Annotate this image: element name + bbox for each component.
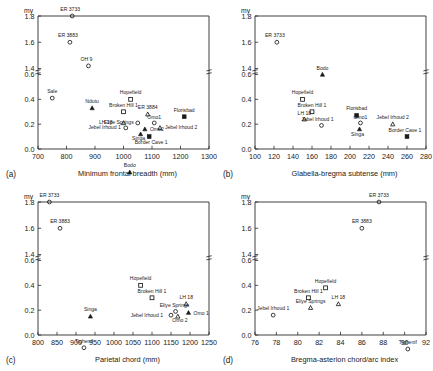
data-point-label: ER 3733 [39,192,59,198]
figure-scatter-panels: 0.00.20.40.61.41.61.87008009001000110012… [0,0,433,371]
data-point-label: Jebel Irhoud 2 [165,124,197,130]
data-point-label: Broken Hill 1 [293,287,322,293]
data-point-label: Singa [350,131,363,137]
data-point-marker [143,127,147,131]
svg-text:1100: 1100 [144,152,159,161]
svg-text:1.4: 1.4 [241,64,251,73]
svg-text:1300: 1300 [201,152,217,161]
data-point-label: Eliye Springs [295,297,325,303]
data-point-marker [300,97,304,101]
svg-text:Minimum frontal breadth (mm): Minimum frontal breadth (mm) [78,169,177,178]
data-point-label: ER 3733 [369,192,389,198]
svg-text:0.2: 0.2 [241,305,251,314]
svg-text:180: 180 [325,152,337,161]
data-point-marker [169,313,173,317]
svg-text:1200: 1200 [182,338,198,347]
data-point-label: ER 3883 [351,218,371,224]
data-point-marker [323,285,327,289]
data-point-marker [122,110,126,114]
data-point-marker [390,122,394,126]
data-point-marker [336,301,340,305]
data-point-label: Jebel Irhoud 2 [376,114,408,120]
data-point-marker [319,124,323,128]
svg-text:900: 900 [89,152,101,161]
data-point-marker [182,115,186,119]
data-point-label: Hopefield [120,89,142,95]
svg-text:1.6: 1.6 [25,38,35,47]
svg-text:140: 140 [287,152,299,161]
data-point-marker [358,121,362,125]
svg-text:(b): (b) [223,170,233,179]
svg-text:100: 100 [249,152,261,161]
data-point-label: Sale [47,88,57,94]
svg-text:1250: 1250 [201,338,217,347]
svg-text:1150: 1150 [163,338,178,347]
svg-text:0.2: 0.2 [25,120,35,129]
data-point-label: Omo1 [147,114,161,120]
data-point-label: Hopefield [291,89,313,95]
svg-text:1100: 1100 [144,338,159,347]
data-point-marker [50,96,54,100]
data-point-label: Broken Hill 1 [297,102,326,108]
svg-text:my: my [24,7,34,15]
svg-text:0.4: 0.4 [25,95,35,104]
data-point-marker [174,309,178,313]
svg-text:240: 240 [382,152,394,161]
data-point-marker [274,40,278,44]
svg-text:1.6: 1.6 [241,38,251,47]
data-point-label: Singa [84,306,97,312]
data-point-label: Omo1 [353,114,367,120]
svg-text:my: my [24,192,34,200]
data-point-marker [186,310,190,314]
data-point-label: Broken Hill 1 [138,287,167,293]
data-point-label: Jebel Irhoud 1 [301,116,333,122]
data-point-label: Eliye Springs [160,302,190,308]
data-point-marker [68,40,72,44]
data-point-label: Omo 2 [172,317,187,323]
panel-d: 0.00.20.40.61.41.61.8767880828486889092m… [217,186,433,371]
data-point-label: Tighenif [75,337,94,343]
svg-text:(a): (a) [6,170,16,179]
data-point-marker [88,314,92,318]
data-point-marker [405,347,409,351]
svg-text:220: 220 [363,152,375,161]
svg-text:1.4: 1.4 [241,250,251,259]
data-point-label: Bodo [316,65,328,71]
svg-text:86: 86 [357,338,365,347]
data-point-label: ER 3733 [60,6,80,12]
svg-text:my: my [241,7,251,15]
panel-a: 0.00.20.40.61.41.61.87008009001000110012… [0,0,217,186]
svg-text:260: 260 [401,152,413,161]
panel-b-plot: 0.00.20.40.61.41.61.81001201401601802002… [217,0,433,186]
data-point-marker [90,106,94,110]
data-point-label: ER 3733 [264,32,284,38]
data-point-marker [124,126,128,130]
panel-a-plot: 0.00.20.40.61.41.61.87008009001000110012… [0,0,217,186]
data-point-label: LH 18 [331,293,345,299]
svg-text:1.6: 1.6 [241,223,251,232]
data-point-marker [320,72,324,76]
svg-text:92: 92 [422,338,430,347]
data-point-marker [139,283,143,287]
data-point-marker [405,135,409,139]
data-point-label: Florisbad [346,105,367,111]
data-point-label: Border Cave 1 [135,139,168,145]
data-point-label: LH 18 [297,110,311,116]
data-point-label: Jebel Irhoud 1 [131,312,163,318]
svg-text:700: 700 [32,152,44,161]
svg-text:1.4: 1.4 [25,64,35,73]
data-point-marker [58,226,62,230]
data-point-marker [152,121,156,125]
data-point-label: ER 3883 [50,218,70,224]
data-point-label: Broken Hill 1 [109,102,138,108]
svg-text:Glabella-bregma subtense (mm): Glabella-bregma subtense (mm) [291,169,397,178]
data-point-marker [87,64,91,68]
svg-text:1200: 1200 [173,152,189,161]
data-point-label: ER 3883 [58,32,78,38]
panel-c: 0.00.20.40.61.41.61.88008509009501000105… [0,186,217,371]
data-point-label: Hopefield [314,277,336,283]
svg-text:1.4: 1.4 [25,250,35,259]
svg-text:76: 76 [251,338,259,347]
data-point-label: Florisbad [174,107,195,113]
data-point-label: LH 18 [179,293,193,299]
